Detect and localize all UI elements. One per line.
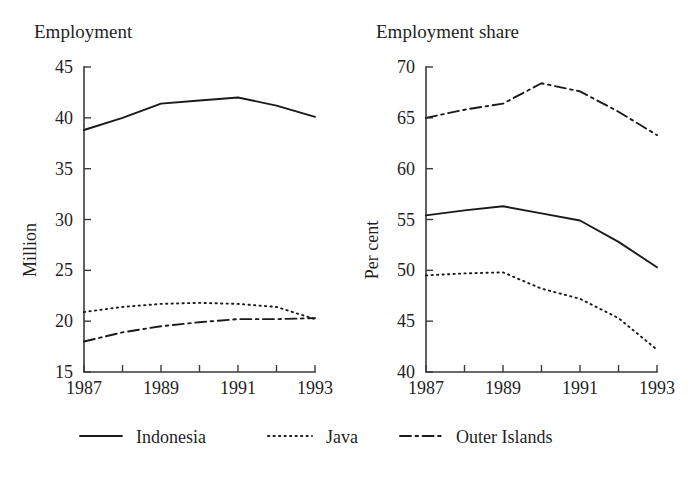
- y-axis-label: Million: [20, 223, 40, 277]
- y-tick-label: 20: [55, 311, 73, 331]
- y-tick-label: 50: [397, 260, 415, 280]
- x-tick-label: 1987: [66, 378, 102, 398]
- y-tick-label: 40: [55, 108, 73, 128]
- x-tick-label: 1993: [639, 378, 675, 398]
- figure-background: [0, 0, 696, 478]
- y-axis-label: Per cent: [362, 221, 382, 279]
- x-tick-label: 1989: [143, 378, 179, 398]
- x-tick-label: 1991: [220, 378, 256, 398]
- y-tick-label: 45: [55, 57, 73, 77]
- x-tick-label: 1993: [297, 378, 333, 398]
- x-tick-label: 1989: [485, 378, 521, 398]
- legend-label-indonesia: Indonesia: [136, 427, 206, 447]
- y-tick-label: 55: [397, 210, 415, 230]
- x-tick-label: 1987: [408, 378, 444, 398]
- y-tick-label: 60: [397, 159, 415, 179]
- employment-figure: Employment152025303540451987198919911993…: [0, 0, 696, 478]
- y-tick-label: 25: [55, 260, 73, 280]
- legend-label-java: Java: [326, 427, 358, 447]
- y-tick-label: 65: [397, 108, 415, 128]
- panel-title: Employment: [34, 21, 133, 42]
- y-tick-label: 70: [397, 57, 415, 77]
- y-tick-label: 30: [55, 210, 73, 230]
- x-tick-label: 1991: [562, 378, 598, 398]
- y-tick-label: 35: [55, 159, 73, 179]
- panel-title: Employment share: [376, 21, 519, 42]
- y-tick-label: 45: [397, 311, 415, 331]
- legend-label-outer-islands: Outer Islands: [456, 427, 552, 447]
